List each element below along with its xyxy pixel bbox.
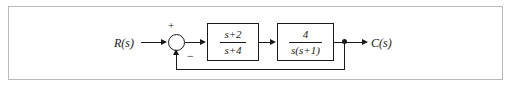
output-signal-label: C(s): [371, 37, 392, 49]
sum-minus-sign: −: [187, 50, 194, 62]
arrow-into-g1: [200, 39, 206, 45]
sum-plus-sign: +: [168, 20, 174, 31]
wire-feedback-up: [176, 54, 177, 70]
g1-numerator: s+2: [222, 28, 243, 41]
wire-g2-to-output: [334, 42, 364, 43]
arrow-to-output: [362, 39, 368, 45]
arrow-into-g2: [270, 39, 276, 45]
g2-fraction-bar: [289, 42, 322, 43]
g1-fraction-bar: [220, 42, 246, 43]
transfer-function-block-g2: 4 s(s+1): [277, 23, 334, 61]
g1-denominator: s+4: [222, 44, 243, 57]
wire-feedback-down: [344, 42, 345, 70]
arrow-into-sum-feedback: [173, 49, 179, 55]
transfer-function-block-g1: s+2 s+4: [207, 23, 259, 61]
g1-fraction: s+2 s+4: [220, 28, 246, 57]
g2-numerator: 4: [301, 28, 311, 41]
g2-fraction: 4 s(s+1): [289, 28, 322, 57]
g2-denominator: s(s+1): [289, 44, 322, 57]
wire-feedback-horizontal: [176, 69, 345, 70]
wire-input: [141, 42, 162, 43]
wire-sum-to-g1: [185, 42, 201, 43]
input-signal-label: R(s): [114, 37, 134, 49]
arrow-into-sum: [161, 39, 167, 45]
figure-canvas: R(s) + − s+2 s+4 4 s(s+1) C(s): [0, 0, 513, 89]
